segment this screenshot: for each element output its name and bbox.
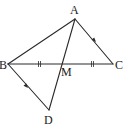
label-C: C: [115, 58, 123, 72]
geometry-diagram: A B C M D: [0, 0, 130, 129]
label-M: M: [61, 65, 72, 79]
segment-AB: [8, 19, 75, 64]
segment-BD: [8, 64, 49, 110]
segment-AC: [75, 19, 113, 64]
label-A: A: [70, 3, 79, 17]
label-B: B: [0, 58, 7, 72]
label-D: D: [44, 113, 53, 127]
